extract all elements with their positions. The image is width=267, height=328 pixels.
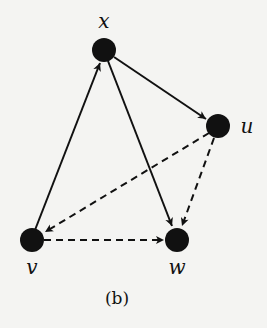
label-x: x (98, 9, 109, 33)
label-v: v (26, 255, 38, 279)
node-w (165, 228, 189, 252)
edge-u-w (182, 138, 214, 226)
node-x (92, 38, 116, 62)
label-w: w (168, 255, 185, 279)
node-v (20, 228, 44, 252)
graph-diagram: x u v w (b) (0, 0, 267, 328)
node-u (206, 114, 230, 138)
edge-x-w (108, 61, 172, 226)
label-u: u (241, 114, 254, 138)
caption: (b) (105, 288, 129, 308)
